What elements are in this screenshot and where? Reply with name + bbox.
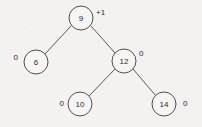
node-12[interactable]: 12 <box>112 49 136 73</box>
edge-group <box>45 26 156 96</box>
edge-9-to-12 <box>91 26 115 53</box>
node-9-label: 9 <box>79 14 84 23</box>
balance-factor-node-6: 0 <box>14 53 19 62</box>
avl-tree-diagram: 9 6 12 10 14 +1 0 0 0 <box>0 0 202 127</box>
node-6[interactable]: 6 <box>24 50 48 74</box>
edge-12-to-10 <box>89 69 115 96</box>
tree-canvas: 9 6 12 10 14 +1 0 0 0 <box>0 0 202 127</box>
balance-factor-node-14: 0 <box>183 99 188 108</box>
node-14-label: 14 <box>160 100 169 109</box>
node-12-label: 12 <box>120 57 129 66</box>
node-6-label: 6 <box>34 58 39 67</box>
edge-12-to-14 <box>133 69 156 96</box>
node-10-label: 10 <box>76 100 85 109</box>
balance-factor-node-12: 0 <box>139 49 144 58</box>
edge-9-to-6 <box>45 26 71 54</box>
node-14[interactable]: 14 <box>152 92 176 116</box>
node-group: 9 6 12 10 14 <box>24 6 176 116</box>
balance-factor-node-9: +1 <box>96 8 106 17</box>
node-9[interactable]: 9 <box>69 6 93 30</box>
balance-factor-node-10: 0 <box>60 99 65 108</box>
node-10[interactable]: 10 <box>68 92 92 116</box>
